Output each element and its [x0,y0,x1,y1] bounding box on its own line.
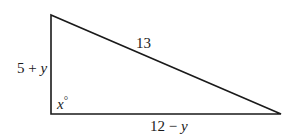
horizontal-leg-variable: y [181,118,188,134]
horizontal-leg-label: 12 − y [150,119,188,134]
horizontal-leg-constant: 12 − [150,118,181,134]
degree-symbol: ° [64,94,68,106]
vertical-leg-constant: 5 + [17,60,40,76]
vertical-leg-variable: y [40,60,47,76]
hypotenuse-label: 13 [136,36,151,51]
vertical-leg-label: 5 + y [17,61,47,76]
angle-variable: x [57,96,64,112]
angle-label: x° [57,95,68,112]
triangle-diagram: 13 5 + y x° 12 − y [0,0,298,138]
hypotenuse-value: 13 [136,35,151,51]
